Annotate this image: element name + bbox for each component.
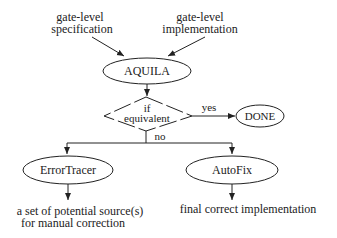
svg-text:specification: specification: [51, 22, 112, 36]
autofix-node: AutoFix: [186, 156, 278, 184]
svg-text:DONE: DONE: [245, 110, 276, 122]
svg-text:for manual correction: for manual correction: [21, 216, 125, 230]
no-label: no: [155, 130, 167, 142]
input-spec-label: gate-level specification: [51, 10, 112, 36]
flowchart: gate-level specification gate-level impl…: [0, 0, 337, 238]
input-impl-label: gate-level implementation: [162, 10, 237, 36]
svg-text:AQUILA: AQUILA: [124, 64, 170, 78]
yes-label: yes: [202, 101, 217, 113]
svg-text:equivalent: equivalent: [124, 112, 170, 124]
aquila-node: AQUILA: [103, 58, 191, 84]
impl-to-aquila-arrow: [168, 37, 205, 56]
decision-node: if equivalent: [104, 97, 192, 131]
svg-text:AutoFix: AutoFix: [212, 163, 252, 177]
errortracer-output-label: a set of potential source(s) for manual …: [17, 204, 144, 230]
svg-text:implementation: implementation: [162, 22, 237, 36]
svg-text:ErrorTracer: ErrorTracer: [40, 163, 96, 177]
errortracer-node: ErrorTracer: [23, 156, 113, 184]
autofix-output-label: final correct implementation: [180, 202, 317, 216]
spec-to-aquila-arrow: [92, 37, 124, 56]
done-node: DONE: [236, 105, 284, 127]
